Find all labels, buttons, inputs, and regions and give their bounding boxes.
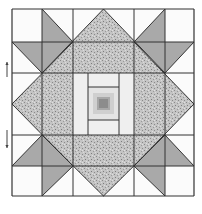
- press-direction-down-arrow-icon: [5, 130, 8, 148]
- star-right-rect: [134, 73, 165, 135]
- quilt-block: [0, 0, 202, 214]
- center-square-core: [99, 99, 108, 108]
- quilt-block-diagram: [0, 0, 202, 214]
- star-top-rect: [73, 42, 134, 73]
- press-direction-up-arrow-icon: [5, 62, 8, 77]
- star-bottom-rect: [73, 135, 134, 166]
- star-left-rect: [42, 73, 73, 135]
